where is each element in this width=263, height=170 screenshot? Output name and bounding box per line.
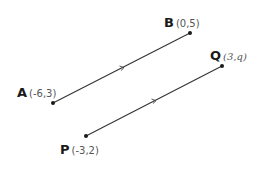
point-label-q: Q(3,q) (210, 47, 247, 63)
point-name-q: Q (210, 48, 221, 63)
point-coords-a: (-6,3) (29, 88, 56, 99)
point-name-p: P (60, 142, 70, 157)
point-name-b: B (164, 15, 174, 30)
point-label-a: A(-6,3) (17, 84, 56, 100)
segment-pq (86, 66, 222, 136)
point-a-dot (51, 101, 55, 105)
point-p-dot (84, 134, 88, 138)
point-b-dot (188, 31, 192, 35)
point-q-dot (220, 64, 224, 68)
point-coords-q: (3,q) (223, 51, 247, 62)
point-label-p: P(-3,2) (60, 141, 99, 157)
point-name-a: A (17, 85, 27, 100)
point-coords-p: (-3,2) (72, 145, 99, 156)
point-coords-b: (0,5) (176, 18, 200, 29)
point-label-b: B(0,5) (164, 14, 200, 30)
